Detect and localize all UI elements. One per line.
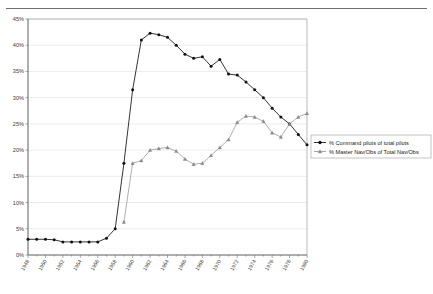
data-point (88, 240, 91, 243)
legend-label-1: % Master Nav/Obs of Total Nav/Obs (329, 149, 419, 155)
data-point (201, 55, 204, 58)
data-point (131, 88, 134, 91)
data-point (44, 238, 47, 241)
data-point (227, 138, 230, 141)
x-tick-label: 1968 (194, 258, 205, 271)
data-point (27, 238, 30, 241)
y-tick-label: 25% (13, 121, 24, 127)
x-tick-label: 1966 (176, 258, 187, 271)
x-tick-label: 1950 (37, 258, 48, 271)
y-tick-label: 40% (13, 42, 24, 48)
data-point (244, 80, 247, 83)
legend-box (311, 135, 431, 158)
data-point (122, 162, 125, 165)
data-point (79, 240, 82, 243)
y-tick-label: 5% (16, 226, 24, 232)
clipped-header-text (10, 0, 310, 7)
x-tick-label: 1962 (141, 258, 152, 271)
legend-label-0: % Command pilots of total pilots (329, 140, 409, 146)
data-point (122, 220, 125, 223)
data-point (262, 96, 265, 99)
x-tick-label: 1958 (107, 258, 118, 271)
data-point (297, 133, 300, 136)
data-point (35, 238, 38, 241)
y-tick-label: 20% (13, 147, 24, 153)
x-tick-label: 1974 (246, 258, 257, 271)
line-chart: 0%5%10%15%20%25%30%35%40%45% 19481950195… (0, 12, 433, 294)
data-point (210, 65, 213, 68)
x-tick-label: 1978 (281, 258, 292, 271)
data-point (149, 32, 152, 35)
series-layer (27, 32, 309, 244)
data-point (114, 227, 117, 230)
y-tick-label: 10% (13, 200, 24, 206)
data-point (53, 238, 56, 241)
x-tick-label: 1970 (211, 258, 222, 271)
data-point (279, 116, 282, 119)
x-tick-label: 1980 (298, 258, 309, 271)
data-point (105, 237, 108, 240)
y-tick-label: 30% (13, 95, 24, 101)
data-point (271, 107, 274, 110)
legend-marker-0 (318, 141, 321, 144)
x-tick-label: 1976 (264, 258, 275, 271)
data-point (157, 33, 160, 36)
x-tick-label: 1948 (19, 258, 30, 271)
data-point (166, 36, 169, 39)
data-point (227, 73, 230, 76)
chart-container: 0%5%10%15%20%25%30%35%40%45% 19481950195… (0, 12, 433, 294)
x-tick-label: 1956 (89, 258, 100, 271)
y-axis-labels: 0%5%10%15%20%25%30%35%40%45% (13, 16, 24, 258)
x-tick-label: 1964 (159, 258, 170, 271)
data-point (236, 74, 239, 77)
chart-legend: % Command pilots of total pilots% Master… (311, 135, 431, 158)
series-line-1 (124, 113, 307, 222)
y-tick-group (26, 19, 29, 255)
series-line-0 (28, 33, 307, 242)
data-point (305, 112, 308, 115)
data-point (140, 38, 143, 41)
x-tick-label: 1954 (72, 258, 83, 271)
x-axis-labels: 1948195019521954195619581960196219641966… (19, 258, 309, 271)
y-tick-label: 45% (13, 16, 24, 22)
x-tick-group (28, 255, 307, 258)
data-point (70, 240, 73, 243)
y-tick-label: 35% (13, 68, 24, 74)
y-tick-label: 15% (13, 173, 24, 179)
data-point (306, 143, 309, 146)
plot-frame (28, 19, 307, 255)
data-point (192, 57, 195, 60)
y-tick-label: 0% (16, 252, 24, 258)
data-point (253, 88, 256, 91)
data-point (218, 58, 221, 61)
x-tick-label: 1960 (124, 258, 135, 271)
data-point (175, 44, 178, 47)
x-tick-label: 1972 (229, 258, 240, 271)
data-point (61, 240, 64, 243)
x-tick-label: 1952 (54, 258, 65, 271)
data-point (183, 53, 186, 56)
document-divider (6, 8, 427, 9)
data-point (96, 240, 99, 243)
data-point (262, 120, 265, 123)
